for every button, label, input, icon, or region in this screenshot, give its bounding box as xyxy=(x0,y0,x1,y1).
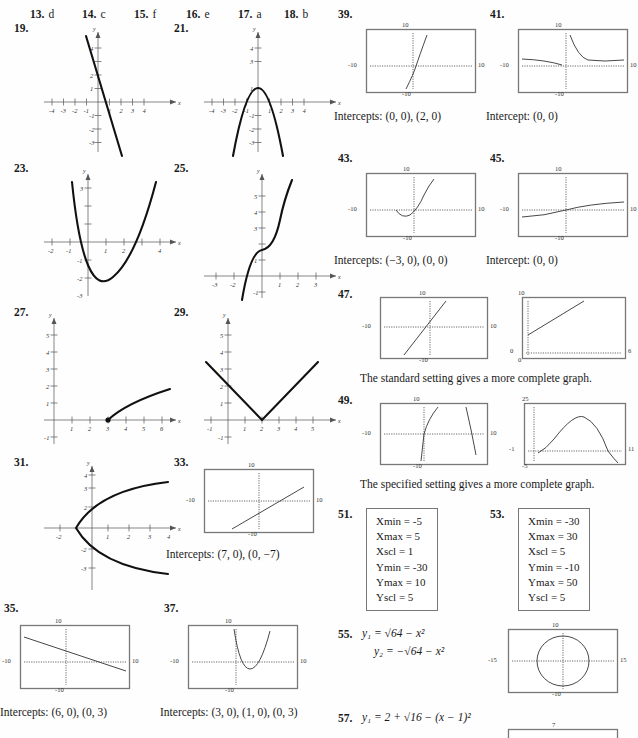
problem-33: 33. 10 -10 -10 10 Intercepts: (7, 0), (0… xyxy=(174,456,334,576)
match-item-18: 18. b xyxy=(284,4,308,22)
calc-label-bottom-49b: -5 xyxy=(522,462,528,469)
svg-text:2: 2 xyxy=(280,107,284,114)
problem-39: 39. 10 -10 -10 10 Intercepts: (0, 0), (2… xyxy=(338,8,486,143)
svg-text:-1: -1 xyxy=(249,112,254,119)
calc-label-left-33: -10 xyxy=(186,496,195,503)
svg-text:4: 4 xyxy=(250,45,254,52)
svg-text:-1: -1 xyxy=(207,425,212,432)
svg-text:-2: -2 xyxy=(56,533,62,540)
calc-label-right-45: 10 xyxy=(630,205,637,212)
svg-text:1: 1 xyxy=(46,400,49,407)
calc-screen-47b: 10 0 0 6 xyxy=(516,292,634,366)
svg-text:3: 3 xyxy=(276,425,280,432)
svg-text:3: 3 xyxy=(249,58,253,65)
matching-answers-row: 13. d 14. c 15. f 16. e 17. a 18. b xyxy=(0,4,330,20)
problem-21: 21. -4-3 -2-1 12 34 xyxy=(174,22,334,160)
calc-screen-57: 7 xyxy=(502,724,624,738)
calc-label-top-45: 10 xyxy=(555,165,562,172)
problem-37: 37. 10 -10 -10 10 Intercepts: (3, 0), (1… xyxy=(164,602,334,732)
calc-label-bottom-47b: 0 xyxy=(518,356,521,363)
calc-label-left-39: -10 xyxy=(348,61,357,68)
calc-label-top-33: 10 xyxy=(248,461,255,468)
calc-label-left-45: -10 xyxy=(500,205,509,212)
graph-23: -2-1 12 4 3 -1-2 -3 xy xyxy=(36,164,186,300)
calc-label-top-35: 10 xyxy=(55,617,62,624)
svg-text:3: 3 xyxy=(147,533,151,540)
svg-text:2: 2 xyxy=(120,107,124,114)
calc-label-left-43: -10 xyxy=(348,205,357,212)
svg-text:y: y xyxy=(256,168,260,174)
calc-label-bottom-45: -10 xyxy=(555,234,564,241)
setting-xmin-53: Xmin = -30 xyxy=(528,514,579,529)
svg-text:5: 5 xyxy=(46,332,49,339)
problem-55: 55. y₁ = √64 − x² y₂ = −√64 − x² 10 -10 … xyxy=(338,628,634,692)
setting-xmax-53: Xmax = 30 xyxy=(528,529,579,544)
calc-screen-49b: 25 -5 -1 11 xyxy=(518,398,636,472)
calc-label-bottom-55: -10 xyxy=(552,690,561,697)
problem-53: 53. Xmin = -30 Xmax = 30 Xscl = 5 Ymin =… xyxy=(490,508,638,618)
problem-23: 23. -2-1 12 4 3 -1-2 -3 xyxy=(14,162,174,304)
calc-label-top-37: 10 xyxy=(225,617,232,624)
svg-text:y: y xyxy=(86,460,90,466)
setting-xmax-51: Xmax = 5 xyxy=(376,529,427,544)
calc-label-top-41: 10 xyxy=(555,21,562,28)
calc-screen-41: 10 -10 -10 10 xyxy=(512,24,634,98)
setting-yscl-53: Yscl = 5 xyxy=(528,590,579,605)
caption-37: Intercepts: (3, 0), (1, 0), (0, 3) xyxy=(160,706,298,718)
svg-text:5: 5 xyxy=(254,193,257,200)
svg-text:-2: -2 xyxy=(48,247,54,254)
svg-text:3: 3 xyxy=(83,485,87,492)
svg-text:y: y xyxy=(252,26,256,32)
problem-29: 29. -1 12 34 5 12 xyxy=(174,306,334,454)
svg-text:4: 4 xyxy=(124,425,128,432)
svg-text:1: 1 xyxy=(278,281,281,288)
problem-49: 49. 10 -10 -10 10 xyxy=(338,394,634,500)
svg-text:2: 2 xyxy=(88,425,92,432)
calc-label-top-55: 10 xyxy=(552,621,559,628)
svg-text:-2: -2 xyxy=(249,126,255,133)
calc-label-top-39: 10 xyxy=(402,21,409,28)
calc-screen-37: 10 -10 -10 10 xyxy=(182,620,304,694)
svg-text:3: 3 xyxy=(79,185,83,192)
graph-21: -4-3 -2-1 12 34 13 4 -1-2 -3 xy xyxy=(196,24,346,156)
svg-text:1: 1 xyxy=(104,247,107,254)
svg-text:-1: -1 xyxy=(77,257,82,264)
setting-ymin-53: Ymin = -10 xyxy=(528,560,579,575)
svg-text:3: 3 xyxy=(313,281,317,288)
equation-55-1-text: y₁ = √64 − x² xyxy=(362,627,425,639)
calc-label-left-47b: 0 xyxy=(510,347,513,354)
calc-label-bottom-43: -10 xyxy=(403,234,412,241)
svg-text:4: 4 xyxy=(84,472,88,479)
calc-label-left-41: -10 xyxy=(500,61,509,68)
window-settings-53: Xmin = -30 Xmax = 30 Xscl = 5 Ymin = -10… xyxy=(518,508,590,611)
svg-text:1: 1 xyxy=(70,425,73,432)
svg-text:-1: -1 xyxy=(253,289,258,296)
svg-text:-3: -3 xyxy=(221,107,226,114)
equation-55-2-text: y₂ = −√64 − x² xyxy=(374,645,444,657)
calc-screen-49a: 10 -10 -10 10 xyxy=(374,398,496,472)
calc-label-bottom-41: -10 xyxy=(555,90,564,97)
problem-35: 35. 10 -10 -10 10 Intercepts: (6, 0), (0… xyxy=(4,602,164,732)
svg-text:4: 4 xyxy=(220,349,224,356)
svg-text:y: y xyxy=(82,168,86,174)
svg-text:-1: -1 xyxy=(218,434,223,441)
setting-ymin-51: Ymin = -30 xyxy=(376,560,427,575)
calc-label-left-47a: -10 xyxy=(362,322,371,329)
caption-35: Intercepts: (6, 0), (0, 3) xyxy=(0,706,107,718)
setting-xscl-51: Xscl = 1 xyxy=(376,544,427,559)
match-item-14: 14. c xyxy=(82,4,105,22)
svg-text:y: y xyxy=(92,26,96,32)
equation-57-1-text: y₁ = 2 + √16 − (x − 1)² xyxy=(362,712,471,723)
svg-text:2: 2 xyxy=(84,504,88,511)
calc-label-right-47a: 10 xyxy=(490,322,497,329)
setting-yscl-51: Yscl = 5 xyxy=(376,590,427,605)
calc-label-left-37: -10 xyxy=(170,657,179,664)
svg-text:-2: -2 xyxy=(72,107,78,114)
graph-25: -3-2 12 3 13 45 -1 xy xyxy=(196,164,346,300)
svg-text:-3: -3 xyxy=(249,139,254,146)
svg-text:4: 4 xyxy=(143,107,147,114)
problem-45: 45. 10 -10 -10 10 Intercept: (0, 0) xyxy=(490,152,638,287)
calc-screen-39: 10 -10 -10 10 xyxy=(360,24,482,98)
calc-label-top-49a: 10 xyxy=(413,395,420,402)
